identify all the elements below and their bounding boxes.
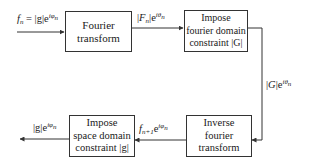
constraint-output-label: |G|eiθn	[266, 79, 291, 91]
impose-fourier-constraint-box: Impose fourier domain constraint |G|	[184, 10, 248, 52]
inverse-fourier-transform-box: Inverse fourier transform	[186, 115, 252, 157]
box-label-line: transform	[199, 142, 240, 155]
box-label-line: Impose	[201, 12, 230, 25]
exponent-subscript: n	[164, 124, 168, 132]
box-label-line: fourier	[205, 130, 234, 143]
exponent-subscript: n	[55, 14, 59, 22]
exponent-subscript: n	[161, 13, 165, 21]
box-label-line: space domain	[73, 130, 130, 143]
fourier-output-label: |Fn|eiθn	[137, 12, 165, 24]
box-label-line: Impose	[87, 117, 118, 130]
box-label-line: constraint |G|	[189, 37, 242, 50]
connector-lines	[0, 0, 310, 167]
exponent-subscript: n	[53, 123, 57, 131]
fourier-transform-box: Fourier transform	[65, 11, 132, 52]
output-text: |g|e	[33, 122, 47, 133]
output-signal-label: |g|eiφn	[33, 122, 56, 134]
box-label-line: fourier domain	[186, 25, 246, 38]
abs-close-e: |e	[149, 12, 156, 23]
box-label-line: Inverse	[204, 117, 235, 130]
subscript-n-plus-1: n+1	[142, 128, 154, 136]
impose-space-constraint-box: Impose space domain constraint |g|	[69, 115, 135, 157]
equation-text: = |g|e	[23, 13, 48, 24]
box-label-line: transform	[77, 32, 120, 45]
exponent-subscript: n	[288, 80, 292, 88]
inverse-output-label: fn+1eiφn	[139, 123, 168, 135]
box-label-line: Fourier	[82, 19, 114, 32]
input-signal-label: fn = |g|eiφn	[17, 13, 58, 25]
symbol-G: G	[268, 79, 276, 90]
box-label-line: constraint |g|	[75, 142, 128, 155]
